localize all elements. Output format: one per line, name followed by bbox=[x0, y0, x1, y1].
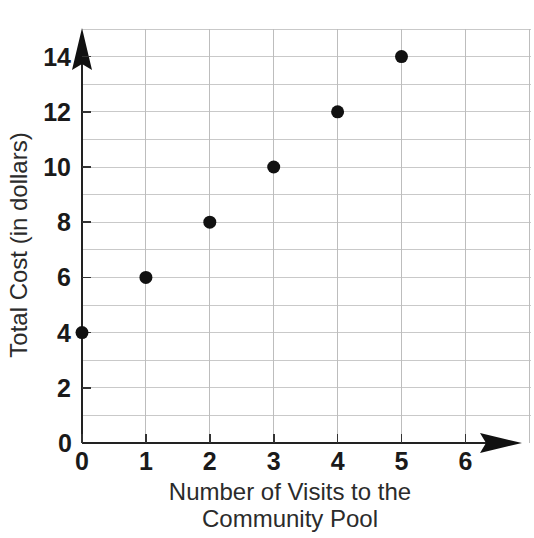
y-tick-label: 8 bbox=[57, 208, 71, 236]
y-axis-origin-label: 0 bbox=[58, 429, 72, 457]
y-tick-label: 4 bbox=[57, 319, 71, 347]
scatter-plot-figure: 0123456 2468101214 0 Total Cost (in doll… bbox=[0, 0, 534, 538]
y-tick-label: 14 bbox=[43, 43, 71, 71]
y-tick-label: 6 bbox=[57, 263, 71, 291]
x-tick-label: 2 bbox=[203, 447, 217, 475]
data-point bbox=[395, 50, 408, 63]
x-tick-label: 6 bbox=[458, 447, 472, 475]
x-tick-label: 1 bbox=[139, 447, 153, 475]
y-axis-title: Total Cost (in dollars) bbox=[5, 132, 32, 357]
data-point bbox=[76, 326, 89, 339]
x-tick-label: 0 bbox=[75, 447, 89, 475]
data-point bbox=[267, 161, 280, 174]
plot-canvas: 0123456 2468101214 0 Total Cost (in doll… bbox=[0, 0, 534, 538]
y-tick-label: 2 bbox=[57, 374, 71, 402]
x-axis-title-line-1: Number of Visits to the bbox=[169, 478, 411, 505]
data-point bbox=[203, 216, 216, 229]
data-point bbox=[331, 105, 344, 118]
x-tick-label: 3 bbox=[267, 447, 281, 475]
y-tick-label: 10 bbox=[43, 153, 71, 181]
x-tick-label: 5 bbox=[395, 447, 409, 475]
x-axis-title-line-2: Community Pool bbox=[202, 505, 378, 532]
y-tick-label: 12 bbox=[43, 98, 71, 126]
data-point bbox=[139, 271, 152, 284]
x-tick-label: 4 bbox=[331, 447, 345, 475]
